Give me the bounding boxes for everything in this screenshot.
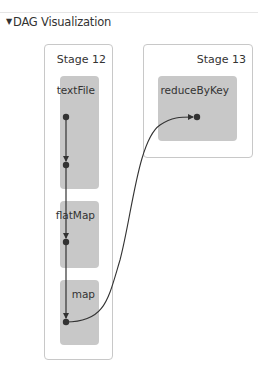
rdd-textfile[interactable]: textFile bbox=[60, 76, 99, 189]
rdd-label: reduceByKey bbox=[160, 84, 229, 96]
rdd-label: flatMap bbox=[56, 209, 95, 221]
stage-label: Stage 12 bbox=[57, 53, 106, 66]
section-title: DAG Visualization bbox=[13, 15, 111, 29]
triangle-down-icon: ▼ bbox=[6, 17, 12, 26]
rdd-reducebykey[interactable]: reduceByKey bbox=[158, 76, 237, 141]
dag-visualization-toggle[interactable]: ▼DAG Visualization bbox=[6, 15, 111, 29]
rdd-label: textFile bbox=[57, 84, 95, 96]
section-divider bbox=[0, 12, 258, 13]
rdd-flatmap[interactable]: flatMap bbox=[60, 201, 99, 268]
rdd-map[interactable]: map bbox=[60, 280, 99, 345]
rdd-label: map bbox=[72, 288, 95, 300]
stage-label: Stage 13 bbox=[197, 53, 246, 66]
